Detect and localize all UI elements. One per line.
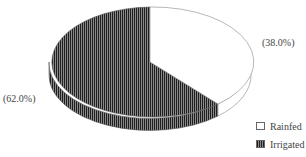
irrigated-swatch-icon [256, 140, 265, 148]
legend-item-irrigated: Irrigated [256, 135, 304, 153]
legend-label-irrigated: Irrigated [270, 139, 304, 150]
legend-label-rainfed: Rainfed [270, 121, 302, 132]
legend-item-rainfed: Rainfed [256, 117, 304, 135]
irrigated-percent-label: (62.0%) [3, 93, 36, 104]
legend: Rainfed Irrigated [256, 117, 304, 153]
rainfed-swatch-icon [256, 122, 265, 130]
rainfed-percent-label: (38.0%) [262, 37, 295, 48]
